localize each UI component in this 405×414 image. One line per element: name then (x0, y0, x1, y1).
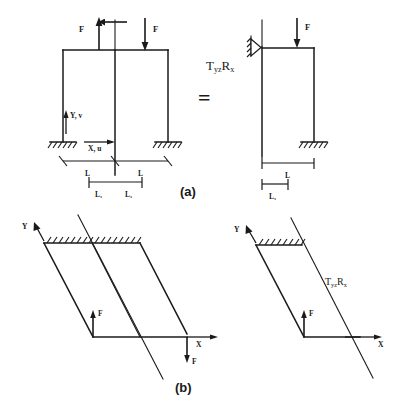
dim-label-inner-right: L₁ (125, 190, 132, 199)
part-b-force-arrow-down (184, 337, 190, 363)
half-ground-support-right (299, 142, 328, 148)
axis-y-label: Y, v (70, 111, 82, 120)
symmetry-support-symbol (247, 36, 261, 57)
half-force-arrow-down (294, 18, 301, 48)
axis-y-arrow (63, 110, 68, 134)
part-b-axis-x-arrow (187, 334, 218, 339)
dim-label-right: L (138, 169, 143, 178)
part-a-caption: (a) (180, 184, 196, 199)
part-b-half-hatched-support (256, 239, 305, 245)
part-b-half-axis-y-label: Y (234, 225, 240, 234)
half-dimension-line-L (262, 158, 314, 169)
dim-label-left: L (85, 169, 90, 178)
part-b-axis-y-label: Y (22, 222, 28, 231)
half-force-label: F (305, 22, 310, 32)
force-label-left: F (79, 24, 84, 34)
equals-sign: = (198, 85, 211, 110)
figure-root: F F Y, v X, u (0, 0, 405, 414)
dim-label-inner-left: L₁ (95, 190, 102, 199)
part-b-half-skew-column-left (256, 245, 304, 337)
part-b-half-skew-diagonal (291, 218, 373, 378)
part-b-force-label-inner: F (98, 309, 103, 318)
part-b-full-model: Y (22, 215, 218, 379)
part-b-caption: (b) (175, 380, 192, 395)
part-b-bc-label-tyz-rx: TyzRx (325, 276, 348, 288)
part-b-half-model: Y X F TyzRx (234, 218, 384, 378)
part-b-skew-member (92, 243, 140, 337)
force-label-right: F (153, 24, 158, 34)
part-b-skew-column-left (44, 243, 93, 337)
part-a-full-model: F F Y, v X, u (48, 17, 182, 199)
half-dim-label-L: L (285, 171, 290, 180)
half-dimension-line-L1 (262, 179, 288, 190)
part-b-half-force-label: F (309, 309, 314, 318)
part-b-axis-x-label: X (196, 340, 202, 349)
ground-support-left (48, 142, 77, 148)
part-b-axis-y-arrow (34, 222, 45, 241)
part-b-skew-column-right (140, 243, 187, 334)
part-b-half-axis-y-arrow (246, 225, 257, 243)
force-arrow-up-left (96, 17, 127, 50)
force-arrow-down-right (142, 18, 149, 51)
axis-x-label: X, u (88, 144, 101, 153)
ground-support-right (153, 142, 182, 148)
part-a-half-model: F TyzRx (206, 18, 328, 201)
part-b-half-axis-x-label: X (378, 340, 384, 349)
figure-canvas: F F Y, v X, u (0, 0, 405, 414)
part-b-skew-diagonal-center (78, 215, 163, 379)
half-dim-label-L1: L₁ (269, 192, 276, 201)
dimension-line-inner (89, 177, 142, 188)
part-b-force-label-outer: F (192, 357, 197, 366)
bc-label-tyz-rx: TyzRx (206, 58, 234, 74)
